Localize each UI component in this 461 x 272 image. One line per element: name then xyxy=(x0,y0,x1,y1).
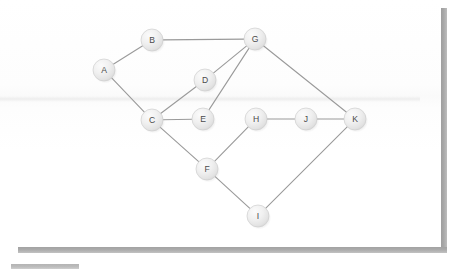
graph-edge-i-k[interactable] xyxy=(265,126,348,209)
graph-edge-c-f[interactable] xyxy=(159,127,199,163)
node-circle[interactable] xyxy=(93,59,115,81)
screenshot-root: ABCDEFGHIJK xyxy=(0,0,461,272)
node-circle[interactable] xyxy=(141,109,163,131)
graph-node-g[interactable]: G xyxy=(244,28,268,52)
graph-node-j[interactable]: J xyxy=(295,108,319,132)
bottom-shadow-bar xyxy=(18,247,447,253)
graph-edge-f-h[interactable] xyxy=(214,126,249,162)
node-circle[interactable] xyxy=(141,29,163,51)
graph-edge-c-d[interactable] xyxy=(160,86,197,114)
graph-node-e[interactable]: E xyxy=(192,108,216,132)
graph-edge-a-b[interactable] xyxy=(112,45,143,64)
graph-node-b[interactable]: B xyxy=(141,29,165,53)
node-circle[interactable] xyxy=(196,158,218,180)
node-circle[interactable] xyxy=(344,108,366,130)
graph-nodes-layer: ABCDEFGHIJK xyxy=(93,28,368,229)
graph-edge-g-k[interactable] xyxy=(263,45,347,113)
graph-edge-b-g[interactable] xyxy=(162,39,245,40)
scroll-handle[interactable] xyxy=(11,264,79,269)
graph-node-k[interactable]: K xyxy=(344,108,368,132)
graph-node-i[interactable]: I xyxy=(247,205,271,229)
right-shadow-bar xyxy=(441,8,447,253)
graph-node-f[interactable]: F xyxy=(196,158,220,182)
graph-node-h[interactable]: H xyxy=(245,108,269,132)
graph-edge-c-e[interactable] xyxy=(162,119,193,120)
node-circle[interactable] xyxy=(192,108,214,130)
node-circle[interactable] xyxy=(247,205,269,227)
node-circle[interactable] xyxy=(295,108,317,130)
node-circle[interactable] xyxy=(244,28,266,50)
graph-node-a[interactable]: A xyxy=(93,59,117,83)
graph-edge-f-i[interactable] xyxy=(214,176,250,209)
node-circle[interactable] xyxy=(245,108,267,130)
graph-edge-a-c[interactable] xyxy=(111,77,145,113)
graph-diagram: ABCDEFGHIJK xyxy=(0,0,443,252)
node-circle[interactable] xyxy=(194,69,216,91)
